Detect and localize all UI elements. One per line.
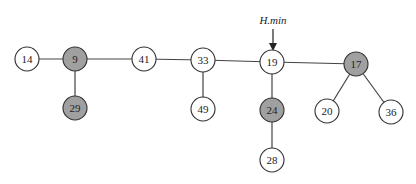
node-19: 19	[260, 50, 284, 74]
node-label: 9	[72, 53, 78, 65]
node-36: 36	[379, 100, 403, 124]
node-24: 24	[260, 98, 284, 122]
node-label: 17	[351, 58, 363, 70]
node-33: 33	[191, 48, 215, 72]
min-pointer: H.min	[258, 14, 287, 51]
node-17: 17	[344, 52, 368, 76]
node-9: 9	[63, 47, 87, 71]
node-label: 20	[322, 105, 334, 117]
node-28: 28	[260, 148, 284, 172]
node-label: 28	[267, 154, 279, 166]
node-20: 20	[315, 99, 339, 123]
min-pointer-label: H.min	[258, 14, 287, 26]
node-label: 33	[198, 54, 210, 66]
edge-19-17	[272, 62, 356, 64]
node-29: 29	[63, 96, 87, 120]
node-49: 49	[191, 97, 215, 121]
node-41: 41	[132, 47, 156, 71]
node-label: 49	[198, 103, 210, 115]
node-14: 14	[15, 47, 39, 71]
node-label: 29	[70, 102, 82, 114]
fibonacci-heap-diagram: H.min 14929413349192428172036	[0, 0, 416, 184]
node-label: 36	[386, 106, 398, 118]
node-label: 24	[267, 104, 279, 116]
node-label: 41	[139, 53, 150, 65]
nodes: 14929413349192428172036	[15, 47, 403, 172]
node-label: 19	[267, 56, 279, 68]
node-label: 14	[22, 53, 34, 65]
